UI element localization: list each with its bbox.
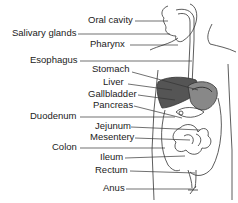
label-rectum: Rectum <box>95 165 128 175</box>
label-mesentery: Mesentery <box>90 132 134 142</box>
label-jejunum: Jejunum <box>95 121 131 131</box>
label-salivary-glands: Salivary glands <box>12 28 76 38</box>
stomach-shape <box>188 82 217 110</box>
leader-line <box>130 171 195 173</box>
label-gallbladder: Gallbladder <box>88 89 137 99</box>
label-colon: Colon <box>52 142 77 152</box>
leader-line <box>125 156 185 158</box>
leader-line <box>131 127 200 130</box>
label-pancreas: Pancreas <box>93 100 133 110</box>
label-esophagus: Esophagus <box>30 55 78 65</box>
leader-line <box>135 138 190 140</box>
label-anus: Anus <box>103 183 125 193</box>
label-ileum: Ileum <box>100 152 123 162</box>
label-pharynx: Pharynx <box>90 39 125 49</box>
leader-line <box>134 106 182 118</box>
label-stomach: Stomach <box>92 64 130 74</box>
label-liver: Liver <box>103 77 124 87</box>
label-oral-cavity: Oral cavity <box>88 15 133 25</box>
label-duodenum: Duodenum <box>30 111 76 121</box>
